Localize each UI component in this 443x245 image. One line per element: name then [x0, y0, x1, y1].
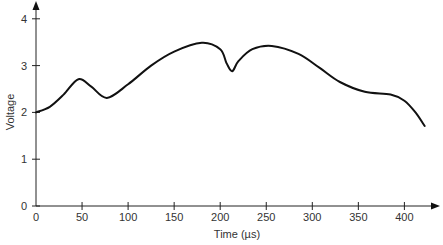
y-tick-label: 0: [21, 200, 27, 212]
y-axis-label: Voltage: [4, 94, 16, 131]
x-tick-label: 0: [33, 211, 39, 223]
x-tick-label: 250: [257, 211, 275, 223]
x-tick-label: 300: [303, 211, 321, 223]
y-tick-label: 1: [21, 153, 27, 165]
x-tick-label: 100: [119, 211, 137, 223]
y-tick-label: 3: [21, 60, 27, 72]
y-tick-label: 2: [21, 106, 27, 118]
y-tick-label: 4: [21, 13, 27, 25]
axes: [33, 1, 441, 210]
x-tick-label: 150: [165, 211, 183, 223]
voltage-time-chart: 050100150200250300350400 01234 Time (µs)…: [0, 0, 443, 245]
x-axis-arrow-icon: [431, 203, 440, 210]
x-ticks: 050100150200250300350400: [33, 202, 414, 223]
x-tick-label: 50: [76, 211, 88, 223]
x-axis-label: Time (µs): [214, 228, 260, 240]
voltage-curve: [36, 43, 425, 126]
x-tick-label: 400: [395, 211, 413, 223]
x-tick-label: 200: [211, 211, 229, 223]
y-axis-arrow-icon: [33, 1, 40, 10]
x-tick-label: 350: [349, 211, 367, 223]
